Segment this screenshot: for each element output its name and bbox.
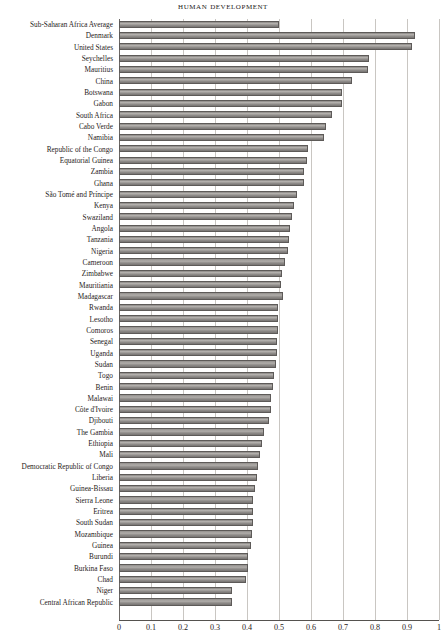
bar-row [119, 302, 439, 313]
category-label: Sierra Leone [0, 495, 116, 506]
bar-burkina-faso [119, 564, 248, 571]
bar-cabo-verde [119, 123, 326, 130]
category-label: Nigeria [0, 246, 116, 257]
bar-central-african-republic [119, 598, 232, 605]
bar-row [119, 563, 439, 574]
bar-ghana [119, 179, 304, 186]
category-label: Guinea [0, 540, 116, 551]
category-label: Lesotho [0, 314, 116, 325]
bar-c-te-d-ivoire [119, 406, 271, 413]
bar-row [119, 529, 439, 540]
bar-row [119, 461, 439, 472]
category-label: Denmark [0, 30, 116, 41]
category-label: Ghana [0, 178, 116, 189]
category-label: Cameroon [0, 257, 116, 268]
category-label: South Sudan [0, 517, 116, 528]
bar-republic-of-the-congo [119, 145, 308, 152]
bar-nigeria [119, 247, 288, 254]
bar-s-o-tom-and-pr-ncipe [119, 191, 297, 198]
bar-gabon [119, 100, 342, 107]
x-axis-line [119, 620, 439, 621]
category-label: Gabon [0, 98, 116, 109]
category-label: The Gambia [0, 427, 116, 438]
plot-area [119, 19, 439, 620]
category-label: Eritrea [0, 506, 116, 517]
bar-row [119, 472, 439, 483]
bar-zimbabwe [119, 270, 282, 277]
bar-mozambique [119, 530, 252, 537]
bar-row [119, 291, 439, 302]
bar-cameroon [119, 258, 285, 265]
bar-eritrea [119, 508, 253, 515]
category-label: Chad [0, 574, 116, 585]
bar-row [119, 404, 439, 415]
bar-row [119, 348, 439, 359]
bar-mali [119, 451, 260, 458]
bar-row [119, 42, 439, 53]
x-tick-label: 0.4 [242, 623, 252, 632]
bar-democratic-republic-of-congo [119, 462, 258, 469]
category-label: Sub-Saharan Africa Average [0, 19, 116, 30]
bar-row [119, 189, 439, 200]
bar-row [119, 574, 439, 585]
bar-row [119, 415, 439, 426]
chart-title: Human Development [0, 1, 446, 11]
bar-chad [119, 576, 246, 583]
bar-lesotho [119, 315, 278, 322]
category-label: Equatorial Guinea [0, 155, 116, 166]
category-label: Rwanda [0, 302, 116, 313]
bar-zambia [119, 168, 304, 175]
bar-row [119, 483, 439, 494]
bar-mauritius [119, 66, 368, 73]
category-label: Djibouti [0, 415, 116, 426]
bar-row [119, 280, 439, 291]
bar-row [119, 393, 439, 404]
bar-senegal [119, 338, 277, 345]
bar-row [119, 336, 439, 347]
bar-kenya [119, 202, 294, 209]
bar-row [119, 144, 439, 155]
bar-row [119, 166, 439, 177]
bar-south-africa [119, 111, 332, 118]
category-axis-labels: Sub-Saharan Africa AverageDenmarkUnited … [0, 19, 116, 620]
bar-row [119, 257, 439, 268]
x-tick-label: 0.3 [210, 623, 220, 632]
bar-row [119, 427, 439, 438]
bar-botswana [119, 89, 342, 96]
bar-row [119, 597, 439, 608]
x-tick-label: 0 [117, 623, 121, 632]
category-label: São Tomé and Príncipe [0, 189, 116, 200]
category-label: Cabo Verde [0, 121, 116, 132]
bar-row [119, 76, 439, 87]
category-label: Angola [0, 223, 116, 234]
category-label: Swaziland [0, 212, 116, 223]
category-label: Niger [0, 585, 116, 596]
category-label: Zimbabwe [0, 268, 116, 279]
category-label: Madagascar [0, 291, 116, 302]
category-label: Mauritiania [0, 280, 116, 291]
bars [119, 19, 439, 620]
bar-benin [119, 383, 273, 390]
category-label: Liberia [0, 472, 116, 483]
bar-row [119, 382, 439, 393]
bar-row [119, 359, 439, 370]
bar-rwanda [119, 304, 278, 311]
bar-row [119, 551, 439, 562]
category-label: Sudan [0, 359, 116, 370]
bar-row [119, 87, 439, 98]
bar-row [119, 121, 439, 132]
bar-row [119, 64, 439, 75]
bar-row [119, 438, 439, 449]
x-tick-label: 0.2 [178, 623, 188, 632]
category-label: Mali [0, 449, 116, 460]
category-label: Burundi [0, 551, 116, 562]
bar-guinea [119, 542, 251, 549]
bar-row [119, 132, 439, 143]
category-label: Mauritius [0, 64, 116, 75]
bar-row [119, 449, 439, 460]
bar-burundi [119, 553, 248, 560]
gridline-1 [439, 19, 440, 620]
bar-row [119, 314, 439, 325]
category-label: Kenya [0, 200, 116, 211]
bar-row [119, 234, 439, 245]
